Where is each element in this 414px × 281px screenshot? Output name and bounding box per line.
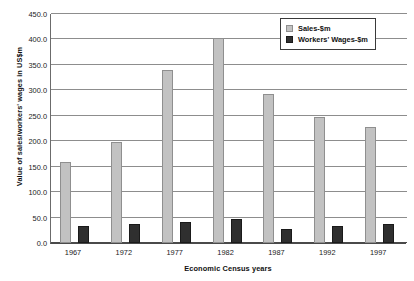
x-axis-title: Economic Census years [50, 264, 406, 273]
bar-group [162, 14, 204, 243]
y-axis-tick-label: 50.0 [33, 213, 47, 222]
y-axis-tick-label: 450.0 [29, 10, 48, 19]
bar-wages-1987 [281, 229, 292, 243]
bar-wages-1997 [383, 224, 394, 243]
x-axis-tick-label: 1977 [166, 248, 182, 257]
y-axis-title: Value of sales/workers' wages in US$m [15, 22, 24, 212]
bar-sales-1972 [111, 142, 122, 243]
bar-group [213, 14, 255, 243]
bar-sales-1992 [314, 117, 325, 243]
chart-legend: Sales-$mWorkers' Wages-$m [280, 18, 376, 50]
y-axis-tick-label: 350.0 [29, 60, 48, 69]
bar-group [111, 14, 153, 243]
bar-wages-1977 [180, 222, 191, 243]
x-axis-tick-label: 1992 [319, 248, 335, 257]
bar-sales-1982 [213, 38, 224, 243]
bar-sales-1977 [162, 70, 173, 243]
legend-item: Workers' Wages-$m [286, 34, 368, 45]
legend-swatch-icon [286, 25, 293, 32]
y-axis-tick-label: 150.0 [29, 162, 48, 171]
x-axis-tick-label: 1967 [65, 248, 81, 257]
bar-wages-1992 [332, 226, 343, 243]
y-axis-tick-label: 400.0 [29, 35, 48, 44]
bar-sales-1967 [60, 162, 71, 243]
bar-group [60, 14, 102, 243]
bar-wages-1982 [231, 219, 242, 243]
bar-chart: Value of sales/workers' wages in US$m 0.… [0, 0, 414, 281]
legend-label: Sales-$m [298, 24, 330, 33]
y-axis-tick-label: 300.0 [29, 86, 48, 95]
legend-item: Sales-$m [286, 23, 368, 34]
y-axis-tick-label: 250.0 [29, 111, 48, 120]
bar-wages-1967 [78, 226, 89, 243]
x-axis-tick-label: 1972 [116, 248, 132, 257]
bar-wages-1972 [129, 224, 140, 243]
y-axis-tick-label: 100.0 [29, 188, 48, 197]
bar-sales-1987 [263, 94, 274, 243]
x-axis-tick-label: 1997 [370, 248, 386, 257]
legend-swatch-icon [286, 36, 293, 43]
y-axis-tick-label: 200.0 [29, 137, 48, 146]
x-axis-tick-label: 1987 [268, 248, 284, 257]
y-axis-tick-label: 0.0 [37, 239, 47, 248]
legend-label: Workers' Wages-$m [298, 35, 368, 44]
x-axis-tick-label: 1982 [217, 248, 233, 257]
bar-sales-1997 [365, 127, 376, 243]
